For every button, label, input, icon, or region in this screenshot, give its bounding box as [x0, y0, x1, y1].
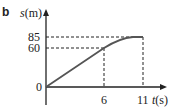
reference-lines: [46, 37, 143, 87]
series-line: [46, 37, 143, 87]
chart-plot: [0, 0, 172, 111]
y-axis-arrow-icon: [43, 9, 49, 16]
x-axis-arrow-icon: [160, 84, 167, 90]
